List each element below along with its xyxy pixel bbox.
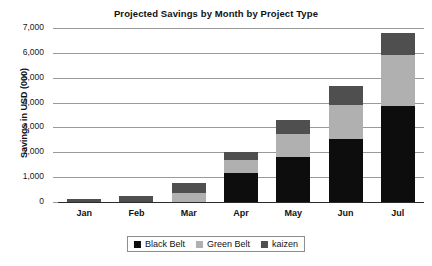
legend-swatch-icon <box>134 241 141 248</box>
x-axis-tick-label: Mar <box>163 208 215 218</box>
chart-legend: Black BeltGreen Beltkaizen <box>127 236 305 252</box>
bar-segment <box>329 86 363 105</box>
y-axis-tick-label: 6,000 <box>0 47 44 57</box>
legend-label: Green Belt <box>207 239 250 249</box>
x-axis-tick-label: Jan <box>58 208 110 218</box>
y-axis-tickmark <box>53 177 58 178</box>
gridline <box>58 53 424 54</box>
bar-group <box>381 33 415 202</box>
y-axis-tick-label: 3,000 <box>0 121 44 131</box>
y-axis-tickmark <box>53 78 58 79</box>
y-axis-tickmark <box>53 28 58 29</box>
y-axis-tickmark <box>53 103 58 104</box>
y-axis-tick-label: 0 <box>0 196 44 206</box>
y-axis-tick-label: 7,000 <box>0 22 44 32</box>
y-axis-tick-label: 4,000 <box>0 97 44 107</box>
chart-figure: Projected Savings by Month by Project Ty… <box>0 0 432 266</box>
legend-entry[interactable]: Green Belt <box>196 239 250 249</box>
bar-segment <box>381 33 415 55</box>
bar-segment <box>119 196 153 202</box>
gridline <box>58 127 424 128</box>
legend-label: kaizen <box>272 239 298 249</box>
legend-entry[interactable]: kaizen <box>261 239 298 249</box>
gridline <box>58 78 424 79</box>
legend-swatch-icon <box>196 241 203 248</box>
gridline <box>58 28 424 29</box>
bar-segment <box>276 157 310 202</box>
y-axis-tickmark <box>53 53 58 54</box>
legend-entry[interactable]: Black Belt <box>134 239 185 249</box>
bar-segment <box>329 105 363 139</box>
y-axis-tickmark <box>53 127 58 128</box>
y-axis-tickmark <box>53 202 58 203</box>
y-axis-tick-label: 2,000 <box>0 146 44 156</box>
bar-segment <box>172 183 206 194</box>
gridline <box>58 103 424 104</box>
bar-group <box>329 86 363 202</box>
bar-group <box>276 120 310 202</box>
bar-segment <box>224 160 258 174</box>
x-axis-tick-label: May <box>267 208 319 218</box>
bar-segment <box>224 152 258 159</box>
chart-title: Projected Savings by Month by Project Ty… <box>0 8 432 19</box>
y-axis-tickmark <box>53 152 58 153</box>
legend-label: Black Belt <box>145 239 185 249</box>
bar-segment <box>276 134 310 158</box>
bar-group <box>172 183 206 202</box>
bar-segment <box>381 55 415 106</box>
bar-segment <box>224 173 258 202</box>
bar-segment <box>67 199 101 202</box>
bar-group <box>67 199 101 202</box>
y-axis-tick-label: 5,000 <box>0 72 44 82</box>
bar-group <box>224 152 258 202</box>
bar-segment <box>381 106 415 202</box>
x-axis-tick-label: Feb <box>110 208 162 218</box>
y-axis-title: Savings in USD (000) <box>19 33 29 193</box>
legend-swatch-icon <box>261 241 268 248</box>
bar-segment <box>172 193 206 202</box>
x-axis-tick-label: Apr <box>215 208 267 218</box>
x-axis-tick-label: Jul <box>372 208 424 218</box>
bar-segment <box>276 120 310 134</box>
x-axis-tick-label: Jun <box>320 208 372 218</box>
bar-group <box>119 196 153 202</box>
axis-baseline <box>58 202 424 203</box>
bar-segment <box>329 139 363 202</box>
plot-area: 01,0002,0003,0004,0005,0006,0007,000 Jan… <box>58 28 424 202</box>
y-axis-tick-label: 1,000 <box>0 171 44 181</box>
